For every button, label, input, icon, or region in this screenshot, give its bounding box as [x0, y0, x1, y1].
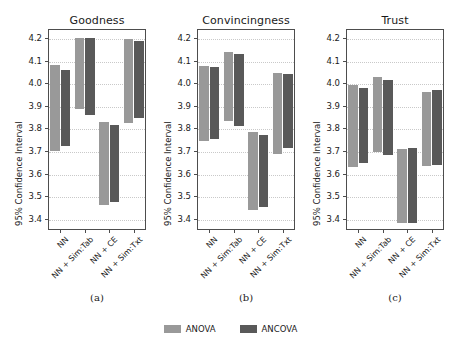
legend-label: ANOVA	[186, 324, 216, 334]
confidence-interval-bar	[408, 148, 418, 223]
y-tick-mark	[343, 38, 346, 39]
confidence-interval-figure: Goodness95% Confidence Interval3.43.53.6…	[0, 0, 461, 344]
panel-title: Trust	[336, 14, 454, 27]
legend-item[interactable]: ANOVA	[164, 324, 216, 334]
y-tick-mark	[343, 61, 346, 62]
grid-line	[347, 220, 443, 221]
y-tick-label: 4.2	[306, 33, 340, 43]
panel-caption: (c)	[336, 292, 454, 303]
confidence-interval-bar	[348, 85, 358, 166]
y-tick-mark	[343, 106, 346, 107]
y-tick-mark	[343, 219, 346, 220]
y-tick-label: 3.4	[306, 214, 340, 224]
confidence-interval-bar	[432, 90, 442, 165]
y-tick-label: 3.5	[306, 191, 340, 201]
x-tick-label: NN + Sim:Txt	[393, 235, 442, 284]
chart-panel: Trust95% Confidence Interval3.43.53.63.7…	[0, 0, 461, 344]
x-tick-mark	[383, 230, 384, 233]
y-tick-mark	[343, 196, 346, 197]
x-tick-mark	[407, 230, 408, 233]
grid-line	[347, 84, 443, 85]
legend-item[interactable]: ANCOVA	[240, 324, 298, 334]
y-tick-mark	[343, 174, 346, 175]
y-tick-label: 3.9	[306, 101, 340, 111]
confidence-interval-bar	[383, 80, 393, 155]
confidence-interval-bar	[397, 149, 407, 224]
y-tick-label: 3.7	[306, 146, 340, 156]
confidence-interval-bar	[422, 92, 432, 166]
confidence-interval-bar	[359, 88, 369, 163]
grid-line	[347, 197, 443, 198]
x-tick-mark	[432, 230, 433, 233]
legend-swatch-icon	[164, 325, 181, 333]
grid-line	[347, 62, 443, 63]
grid-line	[347, 175, 443, 176]
x-tick-mark	[358, 230, 359, 233]
confidence-interval-bar	[373, 77, 383, 152]
legend-label: ANCOVA	[262, 324, 298, 334]
y-tick-label: 4.1	[306, 56, 340, 66]
y-tick-label: 3.6	[306, 169, 340, 179]
legend-swatch-icon	[240, 325, 257, 333]
chart-legend: ANOVAANCOVA	[0, 324, 461, 334]
y-tick-mark	[343, 83, 346, 84]
y-tick-label: 4.0	[306, 78, 340, 88]
y-tick-label: 3.8	[306, 123, 340, 133]
grid-line	[347, 39, 443, 40]
y-tick-mark	[343, 151, 346, 152]
y-tick-mark	[343, 128, 346, 129]
